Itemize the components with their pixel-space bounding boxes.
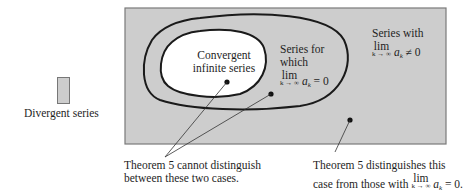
annotation-left-line1: Theorem 5 cannot distinguish bbox=[124, 159, 261, 172]
limit-zero-line1: Series for bbox=[280, 43, 329, 56]
sequence-index: k bbox=[439, 184, 442, 192]
annotation-left: Theorem 5 cannot distinguish between the… bbox=[124, 159, 261, 185]
lim-subscript: k → ∞ bbox=[372, 51, 391, 57]
sequence-index: k bbox=[400, 52, 403, 60]
divergent-legend-swatch bbox=[57, 77, 70, 104]
annotation-right: Theorem 5 distinguishes this case from t… bbox=[313, 159, 463, 192]
annotation-right-prefix: case from those with bbox=[313, 178, 409, 190]
sequence-index: k bbox=[308, 81, 311, 89]
limit-nonzero-label: Series with limk → ∞ ak ≠ 0 bbox=[372, 27, 423, 63]
lim-subscript: k → ∞ bbox=[280, 80, 299, 86]
lim-subscript: k → ∞ bbox=[411, 183, 430, 189]
limit-zero-line2: which bbox=[280, 56, 329, 69]
convergent-label: Convergent infinite series bbox=[187, 49, 261, 75]
limit-zero-formula: limk → ∞ ak = 0 bbox=[280, 69, 329, 92]
annotation-right-line1: Theorem 5 distinguishes this bbox=[313, 159, 463, 172]
annotation-left-line2: between these two cases. bbox=[124, 172, 261, 185]
limit-nonzero-formula: limk → ∞ ak ≠ 0 bbox=[372, 40, 423, 63]
divergent-legend-label: Divergent series bbox=[24, 107, 99, 120]
relation: = 0. bbox=[445, 178, 463, 190]
convergent-label-line1: Convergent bbox=[187, 49, 261, 62]
relation: ≠ 0 bbox=[406, 46, 421, 58]
limit-zero-label: Series for which limk → ∞ ak = 0 bbox=[280, 43, 329, 92]
annotation-right-line2: case from those with limk → ∞ ak = 0. bbox=[313, 172, 463, 192]
limit-nonzero-line1: Series with bbox=[372, 27, 423, 40]
relation: = 0 bbox=[314, 75, 329, 87]
convergent-label-line2: infinite series bbox=[187, 62, 261, 75]
